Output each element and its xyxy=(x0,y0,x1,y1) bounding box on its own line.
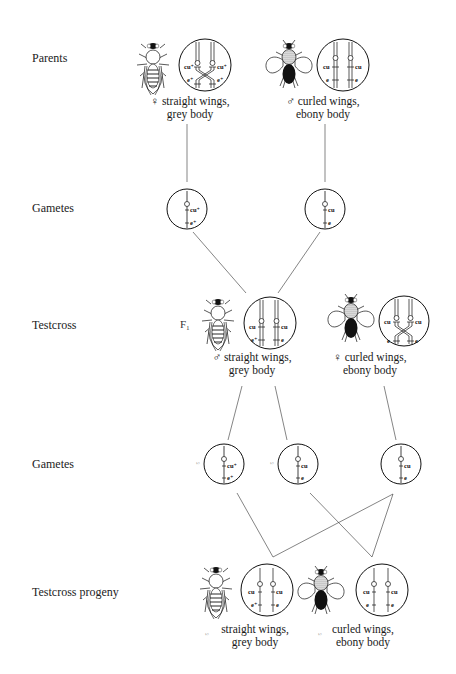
svg-text:cu: cu xyxy=(391,588,398,595)
svg-text:e: e xyxy=(281,336,284,343)
svg-text:e⁺: e⁺ xyxy=(187,76,193,83)
svg-text:cu: cu xyxy=(301,462,308,469)
svg-text:e: e xyxy=(326,76,329,83)
connector-line xyxy=(384,386,396,440)
chromosome-circle-testcross-female: cucu ee xyxy=(379,296,429,346)
gamete-circle-1: cu⁺e⁺ xyxy=(167,189,207,229)
fly-straight-grey-icon xyxy=(137,43,169,95)
gamete-circle-3: cu⁺e⁺ xyxy=(204,444,244,484)
fly-testcross-curled-ebony-icon xyxy=(328,294,374,342)
svg-text:cu: cu xyxy=(328,206,335,213)
svg-text:e: e xyxy=(276,601,279,608)
svg-text:cu⁺: cu⁺ xyxy=(217,63,227,70)
svg-text:cu: cu xyxy=(384,318,391,325)
fly-progeny-straight-grey-icon xyxy=(200,567,232,619)
fly-f1-straight-grey-icon xyxy=(202,299,234,351)
connector-line xyxy=(237,493,273,557)
svg-text:e: e xyxy=(387,337,390,344)
svg-text:cu: cu xyxy=(415,318,422,325)
svg-text:e: e xyxy=(404,474,407,481)
svg-text:cu: cu xyxy=(355,63,362,70)
svg-text:e: e xyxy=(415,337,418,344)
connector-line xyxy=(228,386,242,440)
svg-text:e⁺: e⁺ xyxy=(251,601,257,608)
chromosome-circle-parent-female: cu⁺cu⁺ e⁺e⁺ xyxy=(179,39,231,91)
svg-text:cu⁺: cu⁺ xyxy=(184,63,194,70)
svg-text:cu: cu xyxy=(323,63,330,70)
chromosome-circle-progeny-2: cucu ee xyxy=(356,564,408,616)
svg-text:e: e xyxy=(391,601,394,608)
gamete-circle-2: cue xyxy=(305,189,345,229)
fly-curled-ebony-icon xyxy=(266,40,312,88)
gamete-circle-5: cue xyxy=(381,444,421,484)
svg-text:cu: cu xyxy=(281,323,288,330)
chromosome-circle-parent-male: cucu ee xyxy=(317,39,369,91)
svg-text:e⁺: e⁺ xyxy=(217,76,223,83)
cross-diagram: cu⁺cu⁺ e⁺e⁺ cucu ee cu⁺e⁺ cue xyxy=(0,0,456,674)
svg-text:cu: cu xyxy=(249,323,256,330)
chromosome-circle-f1: cucu e⁺e xyxy=(244,297,296,349)
gamete-circle-4: cue xyxy=(278,444,318,484)
connector-line xyxy=(275,386,287,440)
svg-text:e⁺: e⁺ xyxy=(251,336,257,343)
svg-text:e: e xyxy=(328,219,331,226)
fly-progeny-curled-ebony-icon xyxy=(298,566,344,614)
svg-text:cu: cu xyxy=(404,462,411,469)
connector-line xyxy=(278,232,320,293)
svg-text:cu: cu xyxy=(248,588,255,595)
svg-text:cu⁺: cu⁺ xyxy=(227,462,237,469)
svg-text:cu: cu xyxy=(363,588,370,595)
svg-text:e⁺: e⁺ xyxy=(190,219,196,226)
svg-text:cu: cu xyxy=(276,588,283,595)
svg-text:cu⁺: cu⁺ xyxy=(190,206,200,213)
svg-text:e: e xyxy=(366,601,369,608)
svg-text:e: e xyxy=(355,76,358,83)
chromosome-circle-progeny-1: cucu e⁺e xyxy=(241,564,293,616)
svg-text:e⁺: e⁺ xyxy=(227,474,233,481)
connector-line xyxy=(193,232,246,293)
svg-text:e: e xyxy=(301,474,304,481)
connector-line xyxy=(310,493,372,557)
